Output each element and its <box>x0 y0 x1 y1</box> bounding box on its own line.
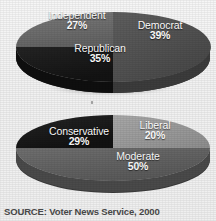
pie-stage-2: Conservative 29% Liberal 20% Moderate 50… <box>0 104 216 198</box>
pie-chart-party-id: Independent 27% Democrat 39% Republican … <box>0 0 216 100</box>
pie-label-democrat-value: 39% <box>138 30 183 41</box>
source-note: SOURCE: Voter News Service, 2000 <box>4 206 216 217</box>
pie-label-independent-value: 27% <box>48 20 105 31</box>
pie-label-moderate-value: 50% <box>116 161 160 172</box>
pie-label-conservative-value: 29% <box>49 136 109 147</box>
pie-label-conservative: Conservative 29% <box>49 126 109 147</box>
pie-label-independent: Independent 27% <box>48 10 105 31</box>
pie-chart-ideology: Conservative 29% Liberal 20% Moderate 50… <box>0 104 216 198</box>
figure-root: Independent 27% Democrat 39% Republican … <box>0 0 216 221</box>
pie-labels-2: Conservative 29% Liberal 20% Moderate 50… <box>0 104 216 198</box>
pie-stage-1: Independent 27% Democrat 39% Republican … <box>0 0 216 100</box>
pie-labels-1: Independent 27% Democrat 39% Republican … <box>0 0 216 100</box>
pie-label-liberal-value: 20% <box>140 130 171 141</box>
pie-label-moderate: Moderate 50% <box>116 151 160 172</box>
pie-label-liberal: Liberal 20% <box>140 120 171 141</box>
pie-label-republican-value: 35% <box>74 53 126 64</box>
pie-label-democrat: Democrat 39% <box>138 20 183 41</box>
pie-label-republican: Republican 35% <box>74 43 126 64</box>
